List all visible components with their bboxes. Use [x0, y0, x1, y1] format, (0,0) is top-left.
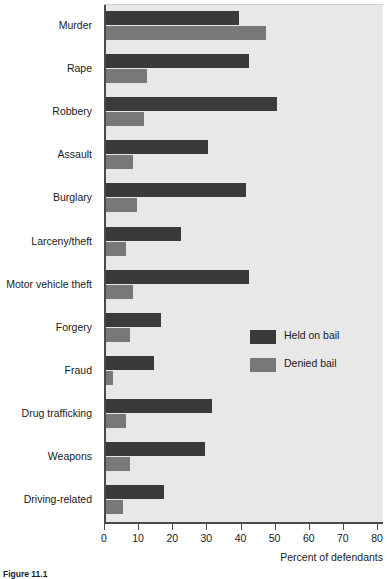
- bar-denied-bail: [106, 328, 130, 342]
- bar-held-on-bail: [106, 356, 154, 370]
- bar-denied-bail: [106, 414, 126, 428]
- bar-held-on-bail: [106, 183, 246, 197]
- bar-held-on-bail: [106, 485, 164, 499]
- bar-group: [106, 436, 383, 479]
- bar-denied-bail: [106, 500, 123, 514]
- y-axis-label: Murder: [0, 19, 92, 31]
- bar-denied-bail: [106, 26, 266, 40]
- x-axis-tick-label: 80: [357, 532, 387, 544]
- bar-held-on-bail: [106, 227, 181, 241]
- bar-held-on-bail: [106, 313, 161, 327]
- y-axis-label: Driving-related: [0, 493, 92, 505]
- bar-group: [106, 393, 383, 436]
- bar-denied-bail: [106, 155, 133, 169]
- bar-group: [106, 221, 383, 264]
- y-axis-label: Motor vehicle theft: [0, 278, 92, 290]
- bar-group: [106, 48, 383, 91]
- x-axis-tick: [377, 524, 378, 530]
- bar-group: [106, 479, 383, 522]
- bar-held-on-bail: [106, 270, 249, 284]
- bar-denied-bail: [106, 371, 113, 385]
- legend-swatch: [250, 330, 276, 344]
- bar-denied-bail: [106, 69, 147, 83]
- bar-denied-bail: [106, 112, 144, 126]
- y-axis-label: Rape: [0, 62, 92, 74]
- bar-held-on-bail: [106, 11, 239, 25]
- bar-denied-bail: [106, 457, 130, 471]
- bar-held-on-bail: [106, 97, 277, 111]
- bar-group: [106, 91, 383, 134]
- y-axis-label: Burglary: [0, 191, 92, 203]
- y-axis-label: Larceny/theft: [0, 235, 92, 247]
- bar-held-on-bail: [106, 399, 212, 413]
- y-axis-label: Fraud: [0, 364, 92, 376]
- y-axis-label: Assault: [0, 148, 92, 160]
- figure-caption: Figure 11.1: [3, 569, 47, 579]
- y-axis-label: Robbery: [0, 105, 92, 117]
- x-axis-tick: [343, 524, 344, 530]
- plot-area: [104, 5, 383, 522]
- x-axis-title: Percent of defendants: [280, 551, 383, 563]
- x-axis-tick: [241, 524, 242, 530]
- bar-group: [106, 307, 383, 350]
- legend-label: Held on bail: [284, 329, 339, 341]
- x-axis-tick: [104, 524, 105, 530]
- x-axis-tick: [172, 524, 173, 530]
- y-axis-label: Weapons: [0, 450, 92, 462]
- x-axis-tick: [309, 524, 310, 530]
- legend-label: Denied bail: [284, 357, 337, 369]
- legend-swatch: [250, 358, 276, 372]
- bar-denied-bail: [106, 198, 137, 212]
- y-axis-label: Drug trafficking: [0, 407, 92, 419]
- bar-group: [106, 5, 383, 48]
- x-axis-tick: [275, 524, 276, 530]
- y-axis-label: Forgery: [0, 321, 92, 333]
- bar-held-on-bail: [106, 442, 205, 456]
- bar-held-on-bail: [106, 54, 249, 68]
- x-axis-tick: [206, 524, 207, 530]
- x-axis-line: [104, 522, 383, 524]
- bar-held-on-bail: [106, 140, 208, 154]
- x-axis-tick: [138, 524, 139, 530]
- bar-denied-bail: [106, 242, 126, 256]
- bar-group: [106, 134, 383, 177]
- bar-group: [106, 350, 383, 393]
- bar-group: [106, 264, 383, 307]
- bar-group: [106, 177, 383, 220]
- bar-denied-bail: [106, 285, 133, 299]
